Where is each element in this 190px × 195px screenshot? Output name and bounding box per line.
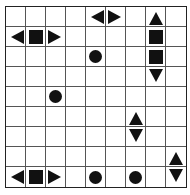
ship-middle-icon: [29, 30, 43, 44]
grid-cell-r0-c6[interactable]: [126, 7, 146, 27]
grid-cell-r2-c7[interactable]: [146, 47, 166, 67]
grid-cell-r4-c1[interactable]: [26, 87, 46, 107]
grid-cell-r6-c2[interactable]: [46, 127, 66, 147]
grid-cell-r4-c3[interactable]: [66, 87, 86, 107]
submarine-icon: [89, 171, 102, 184]
ship-end-top-icon: [149, 12, 163, 25]
grid-cell-r8-c5[interactable]: [106, 167, 126, 187]
ship-end-left-icon: [11, 170, 24, 184]
grid-cell-r8-c2[interactable]: [46, 167, 66, 187]
grid-cell-r0-c4[interactable]: [86, 7, 106, 27]
grid-cell-r2-c4[interactable]: [86, 47, 106, 67]
grid-cell-r5-c2[interactable]: [46, 107, 66, 127]
grid-cell-r3-c1[interactable]: [26, 67, 46, 87]
grid-cell-r3-c3[interactable]: [66, 67, 86, 87]
grid-cell-r7-c0[interactable]: [6, 147, 26, 167]
grid-cell-r4-c0[interactable]: [6, 87, 26, 107]
ship-end-bottom-icon: [149, 69, 163, 82]
grid-cell-r8-c3[interactable]: [66, 167, 86, 187]
grid-cell-r5-c3[interactable]: [66, 107, 86, 127]
grid-cell-r1-c3[interactable]: [66, 27, 86, 47]
grid-cell-r1-c1[interactable]: [26, 27, 46, 47]
ship-end-bottom-icon: [169, 169, 183, 182]
grid-cell-r1-c6[interactable]: [126, 27, 146, 47]
grid-cell-r5-c1[interactable]: [26, 107, 46, 127]
grid-cell-r6-c4[interactable]: [86, 127, 106, 147]
grid-cell-r3-c6[interactable]: [126, 67, 146, 87]
grid-cell-r0-c1[interactable]: [26, 7, 46, 27]
grid-cell-r7-c8[interactable]: [166, 147, 186, 167]
grid-cell-r8-c6[interactable]: [126, 167, 146, 187]
grid-cell-r0-c5[interactable]: [106, 7, 126, 27]
grid-cell-r3-c7[interactable]: [146, 67, 166, 87]
grid-cell-r6-c6[interactable]: [126, 127, 146, 147]
grid-cell-r7-c6[interactable]: [126, 147, 146, 167]
ship-middle-icon: [29, 170, 43, 184]
grid-cell-r7-c2[interactable]: [46, 147, 66, 167]
grid-cell-r6-c0[interactable]: [6, 127, 26, 147]
grid-cell-r5-c4[interactable]: [86, 107, 106, 127]
grid-cell-r2-c8[interactable]: [166, 47, 186, 67]
ship-middle-icon: [149, 50, 163, 64]
ship-end-left-icon: [11, 30, 24, 44]
ship-end-right-icon: [48, 170, 61, 184]
submarine-icon: [89, 50, 102, 63]
grid-cell-r7-c3[interactable]: [66, 147, 86, 167]
grid-cell-r7-c5[interactable]: [106, 147, 126, 167]
grid-cell-r2-c2[interactable]: [46, 47, 66, 67]
grid-cell-r4-c6[interactable]: [126, 87, 146, 107]
grid-cell-r7-c7[interactable]: [146, 147, 166, 167]
grid-cell-r1-c5[interactable]: [106, 27, 126, 47]
grid-cell-r7-c1[interactable]: [26, 147, 46, 167]
grid-cell-r0-c8[interactable]: [166, 7, 186, 27]
grid-cell-r3-c8[interactable]: [166, 67, 186, 87]
grid-cell-r8-c4[interactable]: [86, 167, 106, 187]
grid-cell-r7-c4[interactable]: [86, 147, 106, 167]
puzzle-grid: [5, 6, 187, 188]
ship-end-bottom-icon: [129, 129, 143, 142]
grid-cell-r5-c5[interactable]: [106, 107, 126, 127]
grid-cell-r6-c8[interactable]: [166, 127, 186, 147]
grid-cell-r8-c8[interactable]: [166, 167, 186, 187]
grid-cell-r8-c7[interactable]: [146, 167, 166, 187]
grid-cell-r5-c0[interactable]: [6, 107, 26, 127]
grid-cell-r4-c5[interactable]: [106, 87, 126, 107]
grid-cell-r0-c2[interactable]: [46, 7, 66, 27]
grid-cell-r1-c8[interactable]: [166, 27, 186, 47]
grid-cell-r3-c0[interactable]: [6, 67, 26, 87]
grid-cell-r0-c7[interactable]: [146, 7, 166, 27]
grid-cell-r2-c5[interactable]: [106, 47, 126, 67]
ship-end-top-icon: [169, 152, 183, 165]
grid-cell-r6-c5[interactable]: [106, 127, 126, 147]
grid-cell-r8-c1[interactable]: [26, 167, 46, 187]
grid-cell-r5-c6[interactable]: [126, 107, 146, 127]
grid-cell-r1-c7[interactable]: [146, 27, 166, 47]
ship-end-top-icon: [129, 112, 143, 125]
grid-cell-r5-c7[interactable]: [146, 107, 166, 127]
grid-cell-r4-c2[interactable]: [46, 87, 66, 107]
grid-cell-r1-c0[interactable]: [6, 27, 26, 47]
ship-middle-icon: [149, 30, 163, 44]
submarine-icon: [49, 90, 62, 103]
grid-cell-r6-c1[interactable]: [26, 127, 46, 147]
submarine-icon: [129, 171, 142, 184]
grid-cell-r3-c4[interactable]: [86, 67, 106, 87]
grid-cell-r8-c0[interactable]: [6, 167, 26, 187]
grid-cell-r0-c3[interactable]: [66, 7, 86, 27]
grid-cell-r2-c1[interactable]: [26, 47, 46, 67]
grid-cell-r2-c0[interactable]: [6, 47, 26, 67]
grid-cell-r1-c2[interactable]: [46, 27, 66, 47]
grid-cell-r6-c7[interactable]: [146, 127, 166, 147]
grid-cell-r1-c4[interactable]: [86, 27, 106, 47]
grid-cell-r0-c0[interactable]: [6, 7, 26, 27]
grid-cell-r2-c3[interactable]: [66, 47, 86, 67]
grid-cell-r4-c8[interactable]: [166, 87, 186, 107]
grid-cell-r4-c4[interactable]: [86, 87, 106, 107]
grid-cell-r2-c6[interactable]: [126, 47, 146, 67]
grid-cell-r4-c7[interactable]: [146, 87, 166, 107]
grid-cell-r3-c5[interactable]: [106, 67, 126, 87]
grid-cell-r5-c8[interactable]: [166, 107, 186, 127]
grid-cell-r6-c3[interactable]: [66, 127, 86, 147]
ship-end-right-icon: [48, 30, 61, 44]
grid-cell-r3-c2[interactable]: [46, 67, 66, 87]
